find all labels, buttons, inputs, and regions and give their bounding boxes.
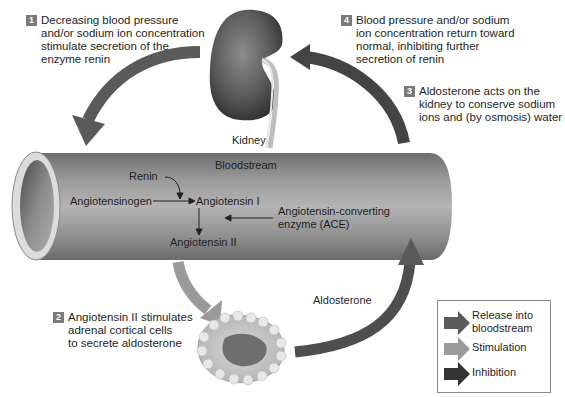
aldosterone-label: Aldosterone (313, 294, 372, 306)
step-3-text: 3Aldosterone acts on the kidney to conse… (404, 85, 562, 124)
bloodstream-label: Bloodstream (215, 159, 277, 171)
angiotensinogen-label: Angiotensinogen (70, 195, 152, 207)
stimulation-arrow-icon (444, 337, 472, 361)
kidney-illustration (210, 10, 283, 148)
ace-label: Angiotensin-converting enzyme (ACE) (278, 205, 390, 231)
step-badge: 2 (53, 312, 64, 323)
inhibition-arrow-icon (444, 362, 472, 386)
step-badge: 4 (341, 15, 352, 26)
step-badge: 1 (26, 15, 37, 26)
angiotensin-1-label: Angiotensin I (196, 195, 260, 207)
renin-label: Renin (129, 170, 158, 182)
step-1-text: 1Decreasing blood pressure and/or sodium… (26, 14, 205, 66)
legend: Release into bloodstream Stimulation Inh… (437, 300, 551, 393)
kidney-label: Kidney (232, 134, 266, 146)
adrenal-gland-illustration (197, 311, 286, 385)
step-2-text: 2Angiotensin II stimulates adrenal corti… (53, 311, 193, 350)
step-badge: 3 (404, 86, 415, 97)
release-arrow-icon (444, 311, 472, 335)
angiotensin-2-label: Angiotensin II (170, 236, 237, 248)
step-4-text: 4Blood pressure and/or sodium ion concen… (341, 14, 515, 66)
arrow-kidney-to-bloodstream (72, 52, 200, 146)
